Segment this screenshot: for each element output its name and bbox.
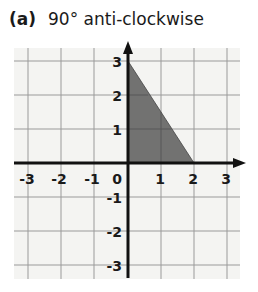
y-axis-arrow-icon [123, 41, 133, 54]
y-tick-label: -1 [106, 190, 122, 206]
x-tick-label: -3 [19, 171, 35, 187]
x-tick-label: 2 [188, 171, 198, 187]
coordinate-grid: -3 -2 -1 0 1 2 3 3 2 1 -1 -2 -3 [0, 0, 258, 292]
y-tick-label: -2 [106, 224, 122, 240]
x-tick-label: 3 [221, 171, 231, 187]
y-tick-label: -3 [106, 258, 122, 274]
x-tick-label: -2 [51, 171, 67, 187]
x-tick-label: 1 [155, 171, 165, 187]
y-tick-label: 2 [112, 88, 122, 104]
x-tick-label: -1 [84, 171, 100, 187]
x-tick-label: 0 [112, 171, 122, 187]
y-tick-label: 3 [112, 54, 122, 70]
y-tick-label: 1 [112, 122, 122, 138]
